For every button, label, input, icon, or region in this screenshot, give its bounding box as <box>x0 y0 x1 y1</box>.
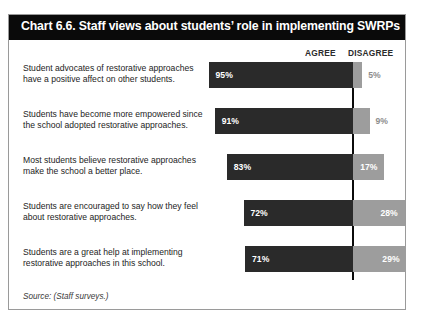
bar-value-agree: 95% <box>216 62 233 88</box>
column-header-disagree: DISAGREE <box>348 48 393 58</box>
bar-value-disagree: 29% <box>382 246 399 272</box>
bar-value-agree: 83% <box>234 154 251 180</box>
bar-value-agree: 91% <box>222 108 239 134</box>
row-bars: 83%17% <box>9 154 405 200</box>
chart-title: Chart 6.6. Staff views about students’ r… <box>21 19 399 33</box>
row-bars: 72%28% <box>9 200 405 246</box>
bar-value-agree: 72% <box>251 200 268 226</box>
chart-plot-area: AGREE DISAGREE Student advocates of rest… <box>9 40 405 309</box>
bar-value-disagree: 9% <box>376 108 388 134</box>
bar-value-disagree: 5% <box>368 62 380 88</box>
source-note: Source: (Staff surveys.) <box>23 292 109 301</box>
row-bars: 71%29% <box>9 246 405 292</box>
bar-value-disagree: 17% <box>360 154 377 180</box>
bar-value-agree: 71% <box>252 246 269 272</box>
chart-row: Students have become more empowered sinc… <box>9 108 405 154</box>
chart-figure: Chart 6.6. Staff views about students’ r… <box>8 14 406 310</box>
row-bars: 91%9% <box>9 108 405 154</box>
row-bars: 95%5% <box>9 62 405 108</box>
bar-value-disagree: 28% <box>381 200 398 226</box>
chart-row: Most students believe restorative approa… <box>9 154 405 200</box>
chart-title-bar: Chart 6.6. Staff views about students’ r… <box>9 15 405 40</box>
column-header-agree: AGREE <box>305 48 336 58</box>
bar-disagree <box>353 62 362 88</box>
bar-disagree <box>353 108 370 134</box>
chart-row: Student advocates of restorative approac… <box>9 62 405 108</box>
chart-row: Students are a great help at implementin… <box>9 246 405 292</box>
chart-row: Students are encouraged to say how they … <box>9 200 405 246</box>
